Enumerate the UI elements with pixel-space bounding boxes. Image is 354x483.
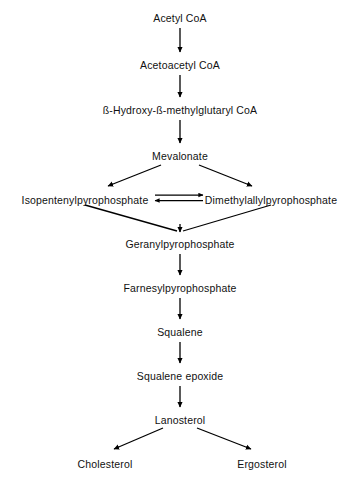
- node-lanosterol: Lanosterol: [155, 414, 206, 426]
- arrow-mevalonate-to-dmapp: [199, 165, 252, 186]
- node-farnesylpyrophosphate: Farnesylpyrophosphate: [124, 282, 237, 294]
- pathway-diagram: Acetyl CoA Acetoacetyl CoA ß-Hydroxy-ß-m…: [0, 0, 354, 483]
- node-acetyl-coa: Acetyl CoA: [153, 12, 206, 24]
- arrow-mevalonate-to-ipp: [108, 165, 161, 186]
- node-acetoacetyl-coa: Acetoacetyl CoA: [140, 59, 220, 71]
- arrow-lanosterol-to-ergosterol: [197, 428, 251, 449]
- node-geranylpyrophosphate: Geranylpyrophosphate: [125, 238, 234, 250]
- node-isopentenylpyrophosphate: Isopentenylpyrophosphate: [22, 194, 149, 206]
- node-cholesterol: Cholesterol: [78, 458, 133, 470]
- node-squalene: Squalene: [157, 326, 203, 338]
- node-dimethylallylpyrophosphate: Dimethylallylpyrophosphate: [205, 194, 337, 206]
- line-dmapp-to-gpp-junction: [183, 205, 271, 231]
- node-squalene-epoxide: Squalene epoxide: [137, 370, 223, 382]
- node-mevalonate: Mevalonate: [152, 150, 208, 162]
- arrow-lanosterol-to-cholesterol: [114, 428, 163, 449]
- node-hmg-coa: ß-Hydroxy-ß-methylglutaryl CoA: [103, 104, 257, 116]
- line-ipp-to-gpp-junction: [85, 205, 177, 231]
- node-ergosterol: Ergosterol: [237, 458, 286, 470]
